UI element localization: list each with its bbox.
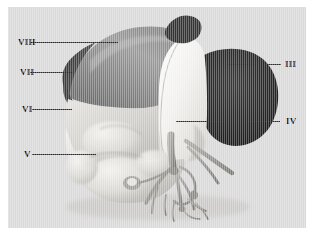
label-segment-vi: VI [22,105,32,114]
vessel-main-trunk [171,135,174,171]
label-segment-iv: IV [286,117,296,126]
liver-3d-render [8,7,306,228]
leader-line-vii [30,72,73,73]
label-segment-viii: VIII [18,38,36,47]
label-segment-iii: III [285,60,296,69]
organ-shadow [66,194,250,220]
label-segment-v: V [24,150,31,159]
superior-notch [165,16,202,44]
figure-container: VIII VII VI V III IV [0,0,314,243]
leader-line-v [32,154,96,155]
leader-line-viii [30,42,118,43]
label-segment-vii: VII [20,68,34,77]
leader-line-vi [32,109,72,110]
leader-line-iv [176,121,280,122]
figure-panel: VIII VII VI V III IV [8,7,306,228]
gallbladder-fossa-inner [127,178,137,186]
leader-line-iii [228,64,281,65]
